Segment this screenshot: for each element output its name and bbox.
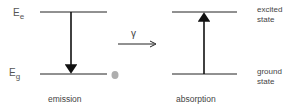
energy-level-diagram [0,0,293,112]
emission-caption: emission [48,94,82,104]
absorption-caption: absorption [176,94,216,104]
photon-symbol: γ [131,29,136,39]
ground-state-label: ground state [257,67,282,87]
ground-energy-label: Eg [9,67,20,81]
excited-energy-label: Ee [13,7,24,21]
photon-dot [112,71,119,79]
excited-state-label: excited state [257,5,282,25]
